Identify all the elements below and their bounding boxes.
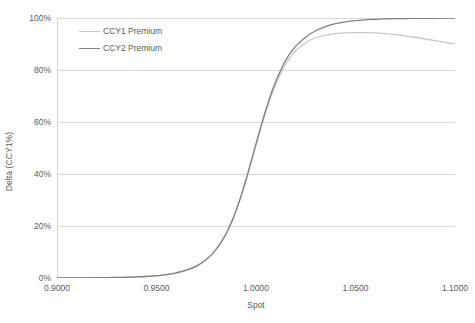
plot-area [57, 18, 455, 278]
axis-lines [57, 18, 455, 278]
x-axis-tick-labels: 0.90000.95001.00001.05001.1000 [57, 284, 455, 298]
x-axis-tick-label: 0.9000 [22, 284, 92, 293]
legend-label: CCY2 Premium [103, 44, 162, 53]
legend-entry[interactable]: CCY1 Premium [79, 26, 162, 37]
legend-line-swatch-icon [79, 31, 100, 32]
y-axis-tick-labels: 0%20%40%60%80%100% [0, 0, 51, 323]
series-line-2 [57, 18, 455, 278]
x-axis-tick-label: 1.1000 [420, 284, 475, 293]
y-axis-tick-label: 100% [5, 14, 51, 23]
legend-entry[interactable]: CCY2 Premium [79, 43, 162, 54]
series-lines [57, 18, 455, 278]
y-axis-tick-label: 80% [5, 66, 51, 75]
y-axis-tick-label: 40% [5, 170, 51, 179]
x-axis-title: Spot [57, 300, 455, 310]
x-axis-tick-label: 1.0500 [321, 284, 391, 293]
line-chart: Delta (CCY1%) 0%20%40%60%80%100% 0.90000… [0, 0, 475, 323]
x-axis-tick-label: 0.9500 [122, 284, 192, 293]
series-line-1 [57, 33, 455, 278]
y-axis-tick-label: 20% [5, 222, 51, 231]
gridlines [57, 18, 455, 278]
x-axis-tick-label: 1.0000 [221, 284, 291, 293]
legend-label: CCY1 Premium [103, 27, 162, 36]
chart-legend: CCY1 PremiumCCY2 Premium [79, 26, 162, 54]
y-axis-tick-label: 0% [5, 274, 51, 283]
y-axis-tick-label: 60% [5, 118, 51, 127]
legend-line-swatch-icon [79, 48, 100, 49]
plot-canvas [57, 18, 455, 278]
